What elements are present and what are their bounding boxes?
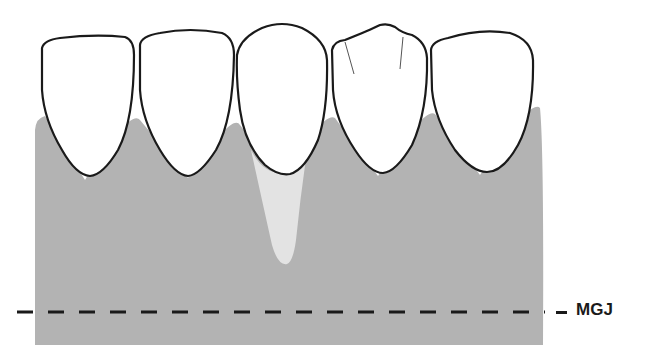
mgj-label: MGJ (576, 300, 613, 320)
dental-diagram (0, 0, 649, 362)
mgj-label-dash (556, 311, 567, 314)
